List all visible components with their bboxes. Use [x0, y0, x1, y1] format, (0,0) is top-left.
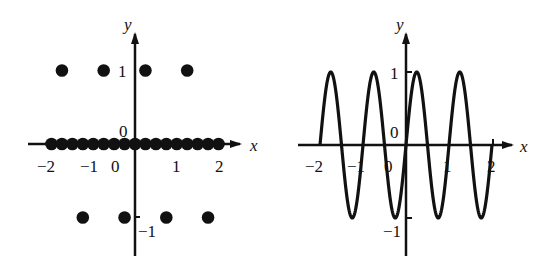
data-point [181, 64, 194, 77]
left-x-tick: −1 [80, 157, 98, 176]
right-x-tick: −2 [305, 157, 323, 176]
figure: x y 0 1 −1 −2 −1 0 1 2 x y 0 1 −1 −2 −1 … [0, 0, 545, 270]
left-origin-label: 0 [119, 122, 128, 141]
data-point [212, 138, 225, 151]
left-scatter-plot: x y 0 1 −1 −2 −1 0 1 2 [28, 15, 258, 256]
right-x-tick: 0 [384, 157, 393, 176]
data-point [56, 64, 69, 77]
right-y-tick-1: 1 [390, 64, 399, 83]
data-point [118, 211, 131, 224]
left-x-axis-label: x [249, 136, 258, 155]
left-x-tick: 0 [111, 157, 120, 176]
left-x-tick: 1 [172, 157, 181, 176]
left-y-tick-neg1: −1 [138, 222, 156, 241]
left-x-tick: 2 [215, 157, 224, 176]
data-point [97, 64, 110, 77]
left-y-tick-1: 1 [118, 62, 127, 81]
right-line-plot: x y 0 1 −1 −2 −1 0 1 2 [298, 15, 528, 256]
right-x-tick: 1 [443, 157, 452, 176]
right-y-tick-neg1: −1 [383, 222, 401, 241]
right-x-axis-label: x [519, 137, 528, 156]
right-x-tick: 2 [487, 157, 496, 176]
data-point [77, 211, 90, 224]
right-x-tick: −1 [347, 157, 365, 176]
data-point [202, 211, 215, 224]
data-point [139, 64, 152, 77]
left-y-axis-label: y [122, 15, 132, 34]
right-y-axis-label: y [394, 15, 404, 34]
right-origin-label: 0 [390, 123, 399, 142]
data-point [160, 211, 173, 224]
left-x-tick: −2 [37, 157, 55, 176]
